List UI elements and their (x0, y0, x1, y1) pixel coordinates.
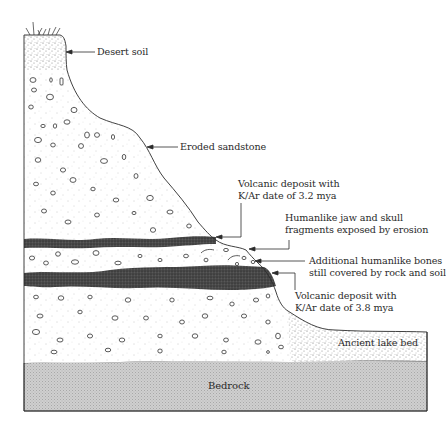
label-desert-soil: Desert soil (97, 46, 148, 58)
label-ancient-lake-bed: Ancient lake bed (338, 337, 418, 349)
sandstone-body (24, 70, 290, 363)
desert-soil-layer (24, 35, 67, 70)
label-jaw-skull-line1: Humanlike jaw and skull (285, 212, 403, 224)
label-jaw-skull-line2: fragments exposed by erosion (285, 224, 428, 236)
label-volcanic-3-2-line2: K/Ar date of 3.2 mya (238, 190, 336, 202)
label-eroded-sandstone: Eroded sandstone (180, 141, 266, 153)
label-additional-bones-line1: Additional humanlike bones (309, 255, 442, 267)
label-additional-bones-line2: still covered by rock and soil (309, 267, 446, 279)
label-volcanic-3-2-line1: Volcanic deposit with (238, 178, 340, 190)
label-volcanic-3-8-line2: K/Ar date of 3.8 mya (295, 302, 393, 314)
label-bedrock: Bedrock (208, 380, 249, 392)
grass-icon (26, 22, 60, 35)
label-volcanic-3-8-line1: Volcanic deposit with (295, 290, 397, 302)
